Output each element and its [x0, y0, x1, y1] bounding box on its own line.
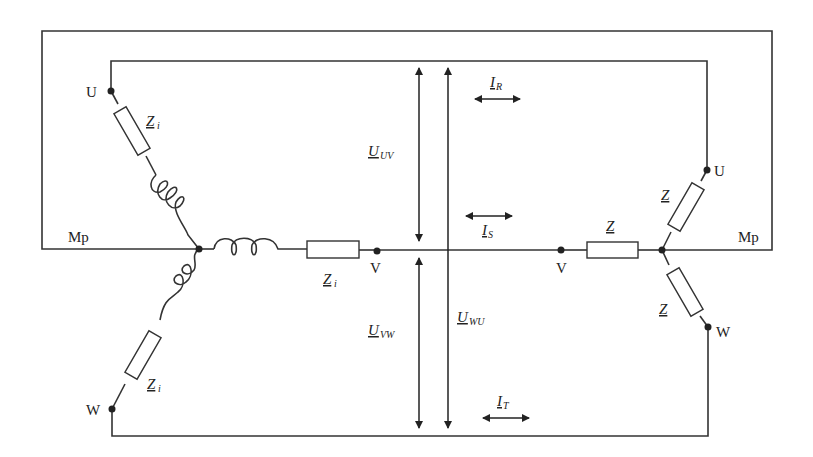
svg-text:Z: Z: [323, 271, 332, 287]
line-w-wire: [112, 327, 708, 436]
svg-text:I: I: [489, 74, 496, 90]
load-node-w: [705, 324, 712, 331]
label-z-v: Z: [606, 218, 615, 234]
label-left-v: V: [370, 260, 381, 276]
load-branch-w: [662, 250, 708, 327]
label-neutral-left: Mp: [68, 229, 89, 245]
load-node-v: [558, 247, 565, 254]
inductor-icon: [160, 249, 199, 320]
svg-text:Z: Z: [146, 113, 155, 129]
source-branch-v: [199, 238, 377, 258]
svg-text:Z: Z: [147, 376, 156, 392]
label-current-t: I T: [496, 393, 510, 411]
svg-text:i: i: [334, 278, 337, 289]
source-node-w: [109, 406, 116, 413]
label-current-r: I R: [489, 74, 502, 92]
label-right-u: U: [714, 163, 725, 179]
label-z-w: Z: [659, 301, 668, 317]
source-branch-w: [112, 249, 199, 409]
svg-text:U: U: [368, 322, 380, 338]
svg-text:i: i: [158, 383, 161, 394]
svg-text:UV: UV: [380, 150, 395, 161]
source-node-v: [374, 248, 381, 255]
neutral-wire: [42, 31, 772, 250]
label-voltage-wu: U WU: [457, 309, 485, 327]
load-branch-u: [662, 170, 707, 250]
inductor-icon: [151, 175, 199, 249]
svg-text:I: I: [496, 393, 503, 409]
label-zi-w: Z i: [147, 376, 161, 394]
source-star-point: [196, 246, 203, 253]
svg-text:WU: WU: [469, 316, 485, 327]
label-zi-u: Z i: [146, 113, 160, 131]
label-current-s: I S: [481, 222, 493, 240]
circuit-diagram: U W V Mp U W V Mp Z i Z i Z i Z Z Z U UV…: [0, 0, 813, 457]
line-u-wire: [111, 61, 707, 170]
label-voltage-vw: U VW: [368, 322, 396, 340]
svg-text:R: R: [495, 81, 502, 92]
load-node-u: [704, 167, 711, 174]
svg-text:VW: VW: [380, 329, 396, 340]
label-zi-v: Z i: [323, 271, 337, 289]
svg-text:T: T: [503, 400, 510, 411]
label-z-u: Z: [661, 187, 670, 203]
load-star-point: [659, 247, 666, 254]
label-left-u: U: [86, 84, 97, 100]
source-node-u: [108, 88, 115, 95]
source-branch-u: [111, 91, 199, 249]
svg-text:U: U: [368, 143, 380, 159]
label-voltage-uv: U UV: [368, 143, 395, 161]
svg-text:I: I: [481, 222, 488, 238]
svg-text:U: U: [457, 309, 469, 325]
label-right-v: V: [556, 260, 567, 276]
load-branch-v: [561, 242, 662, 258]
label-neutral-right: Mp: [738, 229, 759, 245]
inductor-icon: [214, 238, 307, 255]
svg-text:S: S: [488, 229, 493, 240]
svg-text:i: i: [157, 120, 160, 131]
label-right-w: W: [716, 324, 731, 340]
label-left-w: W: [86, 402, 101, 418]
